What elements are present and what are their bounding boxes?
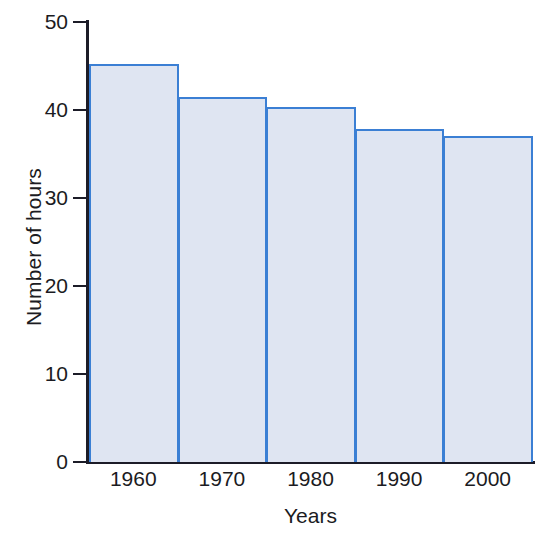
y-axis-tick-0 [73,461,87,463]
x-axis-tick-label: 1960 [89,468,178,489]
bar-2000 [443,136,533,462]
bar-chart: Number of hours 01020304050 196019701980… [0,0,540,535]
x-axis-tick-label: 1990 [355,468,444,489]
x-axis-title: Years [89,504,532,528]
y-axis-tick-20 [73,285,87,287]
y-axis-tick-labels: 01020304050 [0,0,68,535]
y-axis-tick-label: 40 [4,99,68,120]
y-axis-tick-30 [73,197,87,199]
bar-1990 [355,129,445,462]
y-axis-tick-label: 10 [4,363,68,384]
x-axis-tick-label: 2000 [443,468,532,489]
bar-1980 [266,107,356,462]
x-axis-tick-labels: 19601970198019902000 [89,468,532,498]
y-axis-tick-10 [73,373,87,375]
y-axis-tick-label: 50 [4,11,68,32]
y-axis-tick-40 [73,109,87,111]
plot-area [89,22,532,462]
y-axis-tick-label: 0 [4,451,68,472]
y-axis-tick-50 [73,21,87,23]
x-axis-tick-label: 1970 [178,468,267,489]
y-axis-tick-label: 20 [4,275,68,296]
y-axis-tick-label: 30 [4,187,68,208]
bar-1960 [89,64,179,462]
x-axis-tick-label: 1980 [266,468,355,489]
bar-1970 [178,97,268,462]
